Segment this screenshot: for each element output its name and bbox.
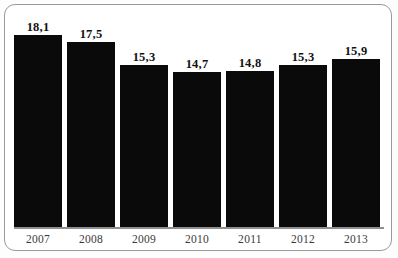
bar-rect[interactable] — [173, 72, 221, 228]
x-axis-labels: 2007 2008 2009 2010 2011 2012 2013 — [14, 231, 384, 249]
plot-area: 18,1 17,5 15,3 14,7 14,8 15,3 15,9 — [14, 10, 384, 228]
bar-value-label: 18,1 — [14, 21, 62, 34]
bar-rect[interactable] — [120, 65, 168, 228]
x-tick-label-2011: 2011 — [226, 231, 274, 247]
bar-rect[interactable] — [332, 59, 380, 228]
bar-rect[interactable] — [226, 71, 274, 228]
bar-group: 15,3 — [279, 10, 327, 228]
bar-group: 14,8 — [226, 10, 274, 228]
bar-value-label: 15,9 — [332, 45, 380, 58]
bar-rect[interactable] — [14, 35, 62, 228]
x-tick-label-2007: 2007 — [14, 231, 62, 247]
bar-group: 15,9 — [332, 10, 380, 228]
x-tick-label-2008: 2008 — [67, 231, 115, 247]
x-tick-label-2013: 2013 — [332, 231, 380, 247]
bar-group: 15,3 — [120, 10, 168, 228]
bar-rect[interactable] — [67, 42, 115, 228]
bar-value-label: 14,8 — [226, 57, 274, 70]
bar-value-label: 17,5 — [67, 28, 115, 41]
bar-group: 17,5 — [67, 10, 115, 228]
bar-rect[interactable] — [279, 65, 327, 228]
x-tick-label-2012: 2012 — [279, 231, 327, 247]
bar-value-label: 15,3 — [279, 51, 327, 64]
bar-value-label: 15,3 — [120, 51, 168, 64]
bar-group: 14,7 — [173, 10, 221, 228]
x-tick-label-2010: 2010 — [173, 231, 221, 247]
x-axis-line — [14, 227, 384, 229]
bar-chart-figure: 18,1 17,5 15,3 14,7 14,8 15,3 15,9 — [0, 0, 398, 258]
bar-group: 18,1 — [14, 10, 62, 228]
bar-value-label: 14,7 — [173, 58, 221, 71]
x-tick-label-2009: 2009 — [120, 231, 168, 247]
